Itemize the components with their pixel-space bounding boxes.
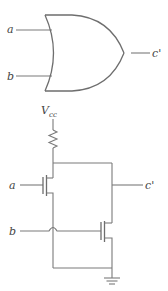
- or-output-label: c': [152, 47, 161, 60]
- circuit-output-label: c': [145, 179, 154, 192]
- vcc-subscript: cc: [49, 111, 57, 119]
- circuit-input-b-label: b: [9, 225, 16, 238]
- ground-icon: [104, 278, 120, 284]
- or-gate: a b c': [7, 15, 161, 91]
- or-input-b-label: b: [7, 70, 14, 83]
- or-gate-bottom-curve: [45, 53, 124, 91]
- or-input-a-label: a: [7, 23, 14, 36]
- logic-diagram: a b c' V cc c' a b: [0, 0, 168, 291]
- transistor-a-icon: [20, 175, 53, 231]
- or-gate-back-curve: [45, 15, 54, 91]
- circuit-input-b-wire: [20, 228, 101, 232]
- transistor-circuit: V cc c' a b: [9, 104, 154, 284]
- resistor-icon: [49, 119, 57, 178]
- transistor-b-icon: [101, 221, 112, 278]
- or-gate-top-curve: [45, 15, 124, 53]
- circuit-input-a-label: a: [9, 179, 16, 192]
